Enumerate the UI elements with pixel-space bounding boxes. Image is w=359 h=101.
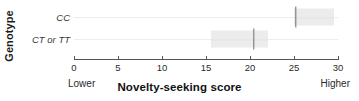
- x-axis-tick-label-5: 5: [115, 62, 120, 73]
- estimate-marker-ct-or-tt: [253, 29, 254, 50]
- x-axis-tick-30: [338, 56, 339, 60]
- chart-figure: Genotype CC CT or TT 051015202530 Lower …: [0, 0, 359, 101]
- x-axis-tick-label-10: 10: [157, 62, 168, 73]
- x-axis-tick-label-30: 30: [333, 62, 344, 73]
- x-axis-tick-10: [162, 56, 163, 60]
- x-axis-tick-0: [74, 56, 75, 60]
- interval-band-ct-or-tt: [211, 31, 267, 48]
- x-axis-line: [74, 59, 338, 60]
- x-axis-tick-15: [206, 56, 207, 60]
- gridline-row-ct-or-tt: [74, 39, 338, 40]
- x-axis-tick-25: [294, 56, 295, 60]
- interval-band-cc: [294, 9, 334, 26]
- category-label-ct-or-tt: CT or TT: [18, 34, 70, 45]
- x-axis-tick-label-15: 15: [201, 62, 212, 73]
- x-axis-tick-label-20: 20: [245, 62, 256, 73]
- x-axis-tick-labels: 051015202530: [74, 62, 338, 76]
- y-axis-title: Genotype: [0, 0, 18, 72]
- category-label-group: CC CT or TT: [18, 0, 70, 58]
- x-axis-tick-label-25: 25: [289, 62, 300, 73]
- x-axis-caption-row: Lower Novelty-seeking score Higher: [0, 76, 359, 101]
- estimate-marker-cc: [295, 7, 296, 28]
- y-axis-title-label: Genotype: [3, 10, 15, 62]
- x-axis-tick-5: [118, 56, 119, 60]
- plot-area: [74, 0, 338, 58]
- axis-anchor-high-label: Higher: [321, 78, 350, 89]
- category-label-cc: CC: [18, 12, 70, 23]
- x-axis-tick-label-0: 0: [71, 62, 76, 73]
- x-axis-tick-20: [250, 56, 251, 60]
- x-axis-title: Novelty-seeking score: [0, 81, 359, 93]
